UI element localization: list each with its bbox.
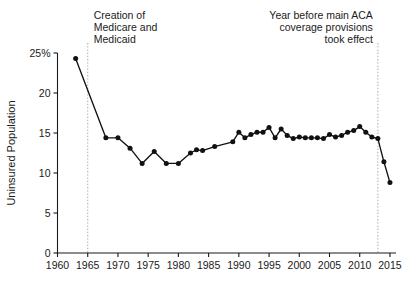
data-point (73, 56, 78, 61)
data-point (303, 135, 308, 140)
data-point (297, 135, 302, 140)
data-point (236, 130, 241, 135)
data-point (176, 161, 181, 166)
x-tick-label-1985: 1985 (197, 259, 221, 271)
x-tick-label-1980: 1980 (167, 259, 191, 271)
event-annotation-2013-line-2: took effect (325, 33, 373, 45)
data-point (230, 139, 235, 144)
data-point (152, 149, 157, 154)
data-point (242, 135, 247, 140)
data-point (387, 180, 392, 185)
data-point (363, 130, 368, 135)
x-tick-label-2015: 2015 (378, 259, 402, 271)
y-tick-label-20: 20 (39, 87, 51, 99)
event-annotation-1965-line-2: Medicaid (94, 33, 136, 45)
data-point (357, 124, 362, 129)
data-point (339, 133, 344, 138)
data-point (369, 135, 374, 140)
event-annotation-2013-line-1: coverage provisions (279, 21, 372, 33)
data-point (164, 161, 169, 166)
data-point (375, 136, 380, 141)
y-tick-label-5: 5 (45, 207, 51, 219)
data-point (212, 144, 217, 149)
x-tick-label-1965: 1965 (76, 259, 100, 271)
data-point (267, 125, 272, 130)
x-tick-label-2000: 2000 (288, 259, 312, 271)
data-point (200, 148, 205, 153)
event-annotation-2013-line-0: Year before main ACA (269, 9, 373, 21)
x-tick-label-2010: 2010 (348, 259, 372, 271)
data-point (351, 128, 356, 133)
data-point (279, 127, 284, 132)
event-annotation-1965-line-1: Medicare and (94, 21, 158, 33)
x-tick-label-1970: 1970 (106, 259, 130, 271)
y-tick-label-0: 0 (45, 247, 51, 259)
data-point (321, 136, 326, 141)
data-point (140, 161, 145, 166)
data-point (194, 147, 199, 152)
x-tick-label-1975: 1975 (136, 259, 160, 271)
x-tick-label-1960: 1960 (46, 259, 70, 271)
data-point (188, 151, 193, 156)
y-tick-label-10: 10 (39, 167, 51, 179)
y-tick-label-25: 25% (29, 47, 50, 59)
data-point (254, 130, 259, 135)
y-axis-title: Uninsured Population (5, 100, 17, 205)
uninsured-population-chart: 0510152025%19601965197019751980198519901… (0, 0, 414, 288)
data-point (333, 135, 338, 140)
data-point (261, 130, 266, 135)
data-point (103, 135, 108, 140)
data-point (381, 159, 386, 164)
event-annotation-1965-line-0: Creation of (94, 9, 145, 21)
data-point (285, 133, 290, 138)
data-point (128, 146, 133, 151)
data-point (273, 135, 278, 140)
data-point (315, 135, 320, 140)
data-point (291, 136, 296, 141)
y-tick-label-15: 15 (39, 127, 51, 139)
chart-canvas: 0510152025%19601965197019751980198519901… (0, 0, 414, 288)
x-tick-label-1990: 1990 (227, 259, 251, 271)
series-line-0 (76, 59, 390, 183)
data-point (309, 135, 314, 140)
data-point (345, 130, 350, 135)
data-point (115, 135, 120, 140)
x-tick-label-2005: 2005 (318, 259, 342, 271)
data-point (327, 132, 332, 137)
data-point (248, 132, 253, 137)
x-tick-label-1995: 1995 (257, 259, 281, 271)
